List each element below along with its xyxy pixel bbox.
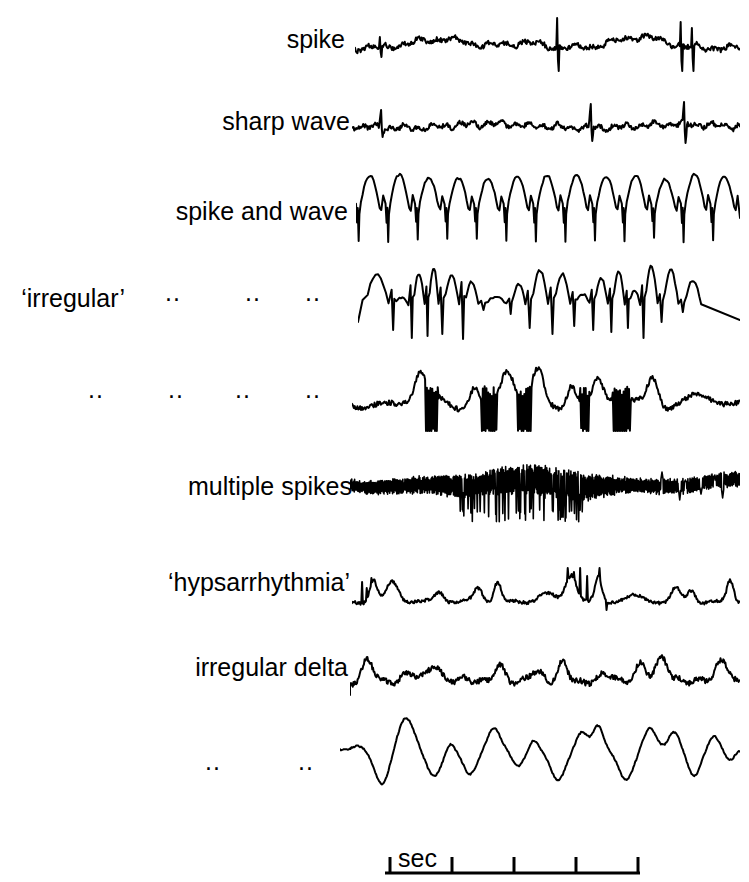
waveform-trace <box>352 346 740 432</box>
ditto-mark: .. <box>88 377 104 402</box>
waveform-trace <box>355 8 740 72</box>
eeg-waveform-figure: spikesharp wavespike and wave‘irregular’… <box>0 0 749 882</box>
ditto-mark: .. <box>205 749 221 774</box>
waveform-trace <box>340 704 740 800</box>
ditto-mark: .. <box>298 749 314 774</box>
waveform-trace <box>358 248 740 340</box>
waveform-trace <box>352 96 740 152</box>
ditto-mark: .. <box>245 280 261 305</box>
waveform-label: irregular delta <box>195 655 348 680</box>
waveform-trace <box>350 448 740 524</box>
waveform-label: sharp wave <box>222 109 350 134</box>
ditto-mark: .. <box>168 377 184 402</box>
waveform-label: ‘hypsarrhythmia’ <box>168 570 350 595</box>
waveform-label: spike and wave <box>176 199 348 224</box>
waveform-label: ‘irregular’ <box>21 286 125 311</box>
scale-label: sec <box>398 846 437 871</box>
ditto-mark: .. <box>305 377 321 402</box>
waveform-trace <box>350 626 740 696</box>
waveform-label: spike <box>287 27 345 52</box>
ditto-mark: .. <box>235 377 251 402</box>
ditto-mark: .. <box>305 280 321 305</box>
waveform-label: multiple spikes <box>188 474 352 499</box>
waveform-trace <box>356 164 740 250</box>
waveform-trace <box>352 542 740 614</box>
ditto-mark: .. <box>165 280 181 305</box>
